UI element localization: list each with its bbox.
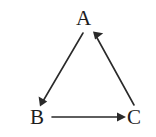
edge-b-to-c [52, 113, 126, 122]
node-label-c: C [127, 107, 141, 128]
edge-a-to-b [39, 33, 83, 107]
edge-c-to-a-line [96, 36, 134, 105]
edge-a-to-b-line [43, 33, 84, 102]
edge-c-to-a [93, 32, 134, 106]
node-label-a: A [76, 8, 91, 29]
edge-b-to-c-arrowhead-icon [117, 113, 126, 122]
directed-graph-figure: A B C [0, 0, 156, 137]
node-label-b: B [30, 107, 44, 128]
